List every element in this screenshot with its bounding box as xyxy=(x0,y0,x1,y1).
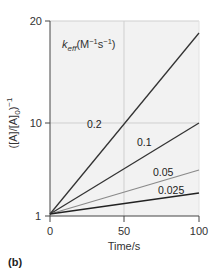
legend-title-close: ) xyxy=(112,38,116,50)
panel-label: (b) xyxy=(8,256,22,268)
x-axis-title: Time/s xyxy=(108,240,141,252)
x-tick-label-50: 50 xyxy=(118,225,130,237)
legend-title-exp1: −1 xyxy=(89,37,98,46)
series-label-0.05: 0.05 xyxy=(153,166,174,178)
y-axis-title-exp: −1 xyxy=(5,97,14,107)
y-tick-label-20: 20 xyxy=(30,15,42,27)
svg-text:([A]/[A]0)−1: ([A]/[A]0)−1 xyxy=(5,97,22,148)
y-axis-title-main: ([A]/[A] xyxy=(7,115,19,149)
series-label-0.2: 0.2 xyxy=(87,118,102,130)
y-axis-title: ([A]/[A]0)−1 xyxy=(5,97,22,148)
x-tick-label-100: 100 xyxy=(190,225,208,237)
legend-title-units: (M xyxy=(76,38,89,50)
chart: 20 10 1 0 50 100 Time/s ([A]/[A]0)−1 kef… xyxy=(0,0,218,271)
y-tick-label-1: 1 xyxy=(35,210,41,222)
series-label-0.1: 0.1 xyxy=(137,136,152,148)
y-tick-label-10: 10 xyxy=(30,117,42,129)
series-label-0.025: 0.025 xyxy=(158,184,184,196)
legend-title-exp2: −1 xyxy=(103,37,112,46)
x-tick-label-0: 0 xyxy=(47,225,53,237)
